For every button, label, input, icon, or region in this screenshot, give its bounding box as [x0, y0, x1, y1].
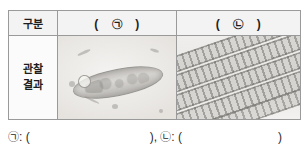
worksheet-page: 구분 (㉠) (㉡) 관찰 결과 — [0, 0, 306, 158]
answer-line: ㉠: (), ㉡: () — [8, 128, 300, 150]
answer-symbol-b: ㉡ — [160, 131, 171, 143]
answer-close-a: ), — [150, 130, 157, 144]
symbol-a: ㉠ — [112, 16, 123, 31]
header-cell-column-b: (㉡) — [177, 11, 301, 36]
table-body-row: 관찰 결과 — [9, 36, 301, 120]
symbol-b: ㉡ — [233, 16, 244, 31]
debris-particle — [69, 81, 75, 87]
header-label-text: 구분 — [23, 18, 44, 30]
header-cell-label: 구분 — [9, 11, 58, 36]
row-label-observation-result: 관찰 결과 — [9, 36, 58, 120]
row-label-line-1: 관찰 — [9, 62, 57, 78]
answer-separator-a: : ( — [19, 130, 30, 144]
table-header-row: 구분 (㉠) (㉡) — [9, 11, 301, 36]
observation-table: 구분 (㉠) (㉡) 관찰 결과 — [8, 10, 301, 120]
micrograph-cell-a — [58, 36, 177, 120]
micrograph-cell-b — [177, 36, 301, 120]
paren-open-b: ( — [203, 17, 234, 31]
paren-close-b: ) — [244, 17, 275, 31]
micrograph-filamentous-algae — [177, 36, 300, 119]
paren-close-a: ) — [122, 17, 153, 31]
micrograph-single-celled-organism — [58, 36, 176, 119]
answer-separator-b: : ( — [171, 130, 182, 144]
answer-symbol-a: ㉠ — [8, 131, 19, 143]
paren-open-a: ( — [81, 17, 112, 31]
header-cell-column-a: (㉠) — [58, 11, 177, 36]
answer-close-b: ) — [278, 130, 282, 144]
row-label-line-2: 결과 — [9, 78, 57, 94]
